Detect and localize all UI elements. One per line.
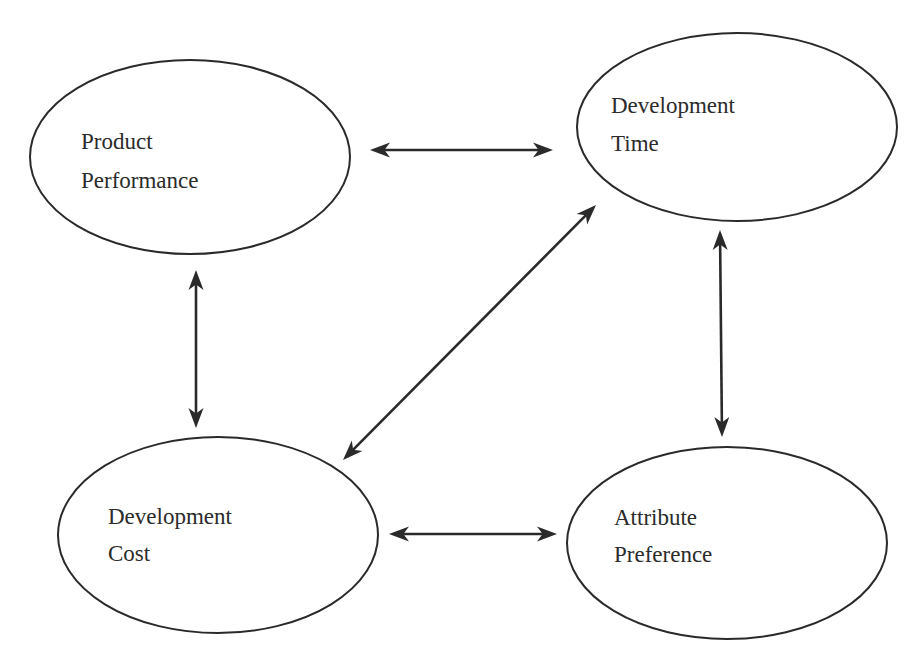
connector-line xyxy=(350,212,589,453)
node-development-cost: Development Cost xyxy=(58,437,378,633)
node-attribute-preference: Attribute Preference xyxy=(567,447,887,639)
relationship-diagram: Product Performance Development Time Dev… xyxy=(0,0,912,664)
node-label-line1: Attribute xyxy=(614,505,697,530)
node-label-line2: Preference xyxy=(614,542,712,567)
node-label-line2: Performance xyxy=(81,168,199,193)
node-ellipse xyxy=(30,60,350,254)
node-ellipse xyxy=(577,33,897,221)
edge-performance-cost xyxy=(189,270,204,428)
connector-line xyxy=(720,240,722,427)
edge-time-preference xyxy=(713,230,730,437)
node-ellipse xyxy=(58,437,378,633)
node-development-time: Development Time xyxy=(577,33,897,221)
node-label-line2: Cost xyxy=(108,541,151,566)
node-label-line1: Product xyxy=(81,129,153,154)
node-product-performance: Product Performance xyxy=(30,60,350,254)
node-label-line1: Development xyxy=(611,93,736,118)
edge-performance-time xyxy=(370,143,553,158)
node-label-line1: Development xyxy=(108,504,233,529)
edge-time-cost xyxy=(343,205,596,460)
edge-cost-preference xyxy=(389,527,557,542)
nodes-layer: Product Performance Development Time Dev… xyxy=(30,33,897,639)
node-label-line2: Time xyxy=(611,131,659,156)
